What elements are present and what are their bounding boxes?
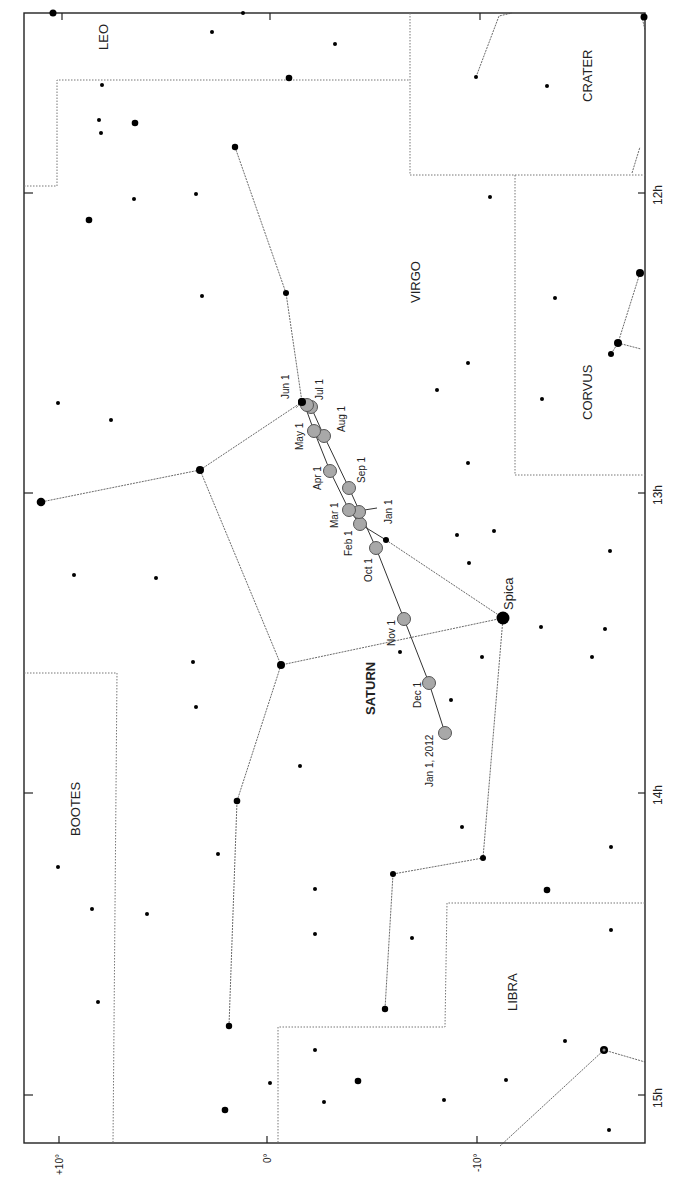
constellation-boundaries: [24, 13, 645, 1143]
date-aug1: Aug 1: [336, 405, 347, 432]
ra-ticks: [24, 193, 645, 1095]
ra-label-15h: 15h: [651, 1088, 665, 1108]
dec-label-minus10: -10°: [472, 1154, 483, 1172]
date-jun1: Jun 1: [280, 374, 291, 399]
label-saturn: SATURN: [363, 662, 378, 715]
date-nov1: Nov 1: [386, 619, 397, 646]
label-bootes: BOOTES: [68, 781, 83, 836]
chart-frame: [24, 13, 645, 1143]
date-jul1: Jul 1: [314, 378, 325, 400]
star-chart: 12h 13h 14h 15h +10° 0° -10°: [0, 0, 698, 1189]
date-mar1: Mar 1: [329, 502, 340, 528]
date-dec1: Dec 1: [412, 681, 423, 708]
date-jan2012: Jan 1, 2012: [424, 734, 435, 787]
label-crater: CRATER: [580, 50, 595, 102]
label-virgo: VIRGO: [408, 261, 423, 303]
date-oct1: Oct 1: [363, 558, 374, 582]
constellation-lines: [41, 13, 645, 1146]
ra-label-14h: 14h: [651, 785, 665, 805]
date-feb1: Feb 1: [343, 530, 354, 556]
label-spica: Spica: [501, 577, 516, 610]
ra-label-13h: 13h: [651, 485, 665, 505]
label-corvus: CORVUS: [580, 364, 595, 420]
dec-ticks: [59, 13, 480, 1143]
spica-star: [497, 612, 510, 625]
dec-label-0: 0°: [262, 1153, 273, 1163]
dec-label-plus10: +10°: [54, 1154, 65, 1175]
ra-label-12h: 12h: [651, 185, 665, 205]
date-may1: May 1: [294, 422, 305, 450]
date-jan1: Jan 1: [383, 499, 394, 524]
date-apr1: Apr 1: [312, 466, 323, 490]
stars: [37, 10, 648, 1133]
date-sep1: Sep 1: [356, 456, 367, 483]
label-libra: LIBRA: [505, 973, 520, 1011]
label-leo: LEO: [96, 24, 111, 50]
